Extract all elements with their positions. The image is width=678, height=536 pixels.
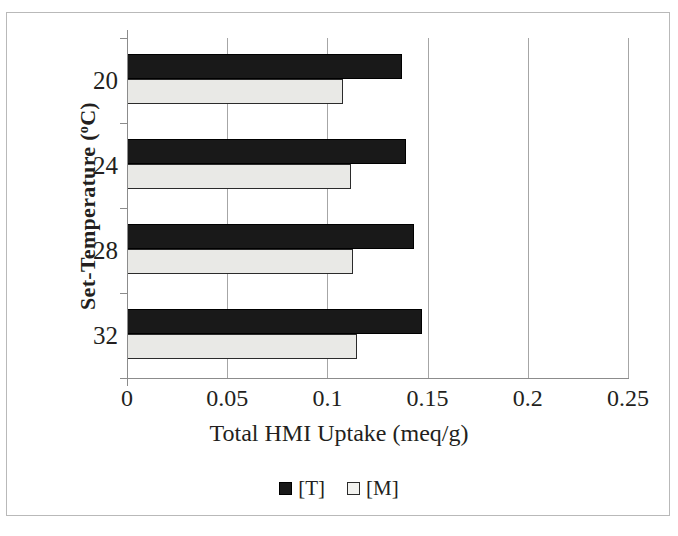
y-axis-title-main: Set-Temperature ( (75, 133, 100, 310)
y-axis-title-end: C) (75, 102, 100, 126)
chart-figure: 20242832 Set-Temperature (oC) 00.050.10.… (0, 0, 678, 536)
category-tick (120, 38, 127, 39)
bar-T-28 (127, 224, 414, 249)
plot-area (127, 38, 628, 378)
bar-T-32 (127, 309, 422, 334)
x-tick-label: 0.2 (483, 383, 573, 413)
x-tick-label: 0.05 (182, 383, 272, 413)
bar-M-32 (127, 334, 357, 359)
bar-M-28 (127, 249, 353, 274)
bar-M-24 (127, 164, 351, 189)
x-axis-tick-labels: 00.050.10.150.20.25 (127, 383, 628, 415)
gridline (628, 38, 629, 378)
gridline (428, 38, 429, 378)
legend-swatch-icon (279, 482, 292, 495)
x-tick-label: 0.15 (383, 383, 473, 413)
bar-T-24 (127, 139, 406, 164)
bar-M-20 (127, 79, 343, 104)
chart-legend: [T][M] (0, 478, 678, 499)
legend-swatch-icon (347, 482, 360, 495)
x-tick-label: 0.25 (583, 383, 673, 413)
category-tick (120, 123, 127, 124)
degree-symbol: o (76, 126, 91, 133)
category-tick (120, 208, 127, 209)
x-tick-label: 0 (82, 383, 172, 413)
x-axis-title: Total HMI Uptake (meq/g) (0, 418, 678, 448)
y-axis-title: Set-Temperature (oC) (75, 56, 101, 356)
bar-T-20 (127, 54, 402, 79)
legend-label: [T] (298, 478, 325, 499)
category-tick (120, 293, 127, 294)
legend-entry-T: [T] (279, 478, 325, 499)
value-axis-baseline (121, 378, 629, 379)
legend-label: [M] (366, 478, 399, 499)
category-axis-line (127, 30, 128, 386)
gridline (528, 38, 529, 378)
x-tick-label: 0.1 (282, 383, 372, 413)
legend-entry-M: [M] (347, 478, 399, 499)
